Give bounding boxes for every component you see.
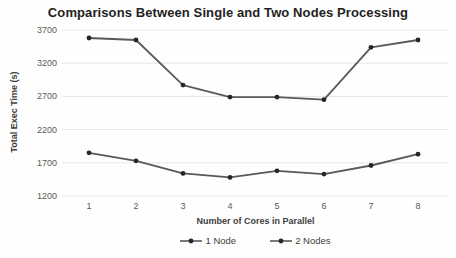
- x-tick-label: 3: [180, 201, 185, 211]
- x-tick-label: 2: [133, 201, 138, 211]
- data-point-marker: [228, 95, 233, 100]
- data-point-marker: [181, 171, 186, 176]
- data-point-marker: [87, 150, 92, 155]
- line-marker-icon: [180, 237, 202, 245]
- data-point-marker: [416, 38, 421, 43]
- line-marker-icon: [270, 237, 292, 245]
- data-point-marker: [134, 38, 139, 43]
- legend: 1 Node 2 Nodes: [63, 235, 448, 246]
- x-tick-label: 7: [368, 201, 373, 211]
- x-tick-label: 8: [415, 201, 420, 211]
- data-point-marker: [275, 168, 280, 173]
- x-tick-label: 5: [274, 201, 279, 211]
- chart-container: Comparisons Between Single and Two Nodes…: [0, 0, 456, 258]
- data-point-marker: [369, 45, 374, 50]
- y-tick-label: 2200: [37, 125, 57, 135]
- y-tick-label: 2700: [37, 91, 57, 101]
- y-tick-label: 3700: [37, 25, 57, 35]
- data-point-marker: [134, 158, 139, 163]
- y-tick-label: 1700: [37, 158, 57, 168]
- legend-item-2-nodes: 2 Nodes: [270, 235, 330, 246]
- x-tick-label: 6: [321, 201, 326, 211]
- data-point-marker: [181, 83, 186, 88]
- data-point-marker: [275, 95, 280, 100]
- data-point-marker: [369, 163, 374, 168]
- data-point-marker: [416, 152, 421, 157]
- data-point-marker: [87, 36, 92, 41]
- y-tick-label: 3200: [37, 58, 57, 68]
- legend-item-1-node: 1 Node: [180, 235, 236, 246]
- legend-label-1-node: 1 Node: [205, 235, 236, 246]
- legend-label-2-nodes: 2 Nodes: [295, 235, 330, 246]
- data-point-marker: [228, 175, 233, 180]
- x-tick-label: 4: [227, 201, 232, 211]
- y-tick-label: 1200: [37, 191, 57, 201]
- x-axis-title: Number of Cores in Parallel: [63, 216, 448, 226]
- data-point-marker: [322, 172, 327, 177]
- data-point-marker: [322, 97, 327, 102]
- x-tick-label: 1: [86, 201, 91, 211]
